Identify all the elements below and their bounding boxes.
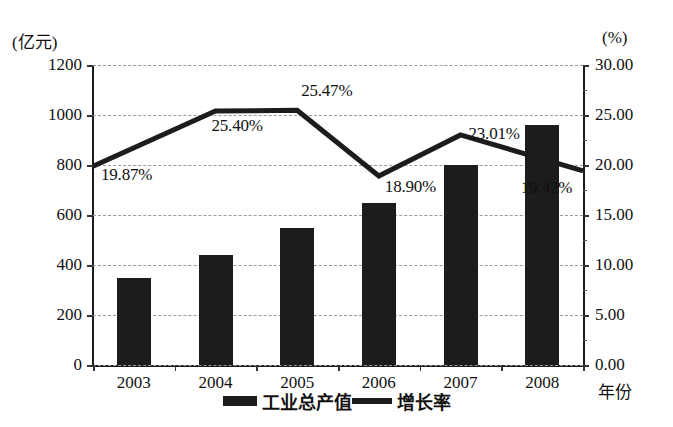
legend-bar-swatch-icon xyxy=(223,396,257,406)
growth-rate-line-series xyxy=(93,65,583,366)
right-tick-label: 10.00 xyxy=(595,255,665,275)
right-axis-tick xyxy=(583,315,589,317)
left-axis-unit-label: (亿元) xyxy=(12,28,57,53)
right-axis-tick xyxy=(583,215,589,217)
chart-legend: 工业总产值增长率 xyxy=(0,388,673,414)
growth-rate-label-2003: 19.87% xyxy=(101,165,152,185)
right-axis-unit-label: (%) xyxy=(602,28,627,48)
left-tick-label: 1200 xyxy=(0,55,82,75)
legend-label: 增长率 xyxy=(397,388,451,414)
left-tick-label: 600 xyxy=(0,205,82,225)
right-axis-tick xyxy=(583,65,589,67)
left-tick-label: 800 xyxy=(0,155,82,175)
right-tick-label: 25.00 xyxy=(595,105,665,125)
right-axis-tick xyxy=(583,165,589,167)
right-axis-tick xyxy=(583,115,589,117)
chart-container: (亿元) (%) 020040060080010001200 0.005.001… xyxy=(0,0,673,427)
legend-label: 工业总产值 xyxy=(262,388,352,414)
x-axis-tick xyxy=(583,365,585,371)
growth-rate-label-2007: 23.01% xyxy=(469,124,520,144)
right-tick-label: 0.00 xyxy=(595,355,665,375)
right-axis-tick xyxy=(583,265,589,267)
plot-area xyxy=(93,65,583,365)
left-tick-label: 0 xyxy=(0,355,82,375)
right-axis-minor-tick xyxy=(583,290,587,291)
right-tick-label: 5.00 xyxy=(595,305,665,325)
legend-item[interactable]: 增长率 xyxy=(352,388,451,414)
growth-rate-label-2008: 19.42% xyxy=(521,178,572,198)
growth-rate-label-2005: 25.47% xyxy=(301,81,352,101)
right-tick-label: 20.00 xyxy=(595,155,665,175)
growth-rate-label-2004: 25.40% xyxy=(212,116,263,136)
right-axis-minor-tick xyxy=(583,340,587,341)
left-tick-label: 400 xyxy=(0,255,82,275)
legend-item[interactable]: 工业总产值 xyxy=(223,388,352,414)
left-tick-label: 1000 xyxy=(0,105,82,125)
legend-line-swatch-icon xyxy=(352,398,392,404)
right-axis-minor-tick xyxy=(583,90,587,91)
right-axis-minor-tick xyxy=(583,190,587,191)
right-tick-label: 30.00 xyxy=(595,55,665,75)
left-tick-label: 200 xyxy=(0,305,82,325)
right-axis-minor-tick xyxy=(583,240,587,241)
right-tick-label: 15.00 xyxy=(595,205,665,225)
right-axis-minor-tick xyxy=(583,140,587,141)
growth-rate-label-2006: 18.90% xyxy=(385,177,436,197)
